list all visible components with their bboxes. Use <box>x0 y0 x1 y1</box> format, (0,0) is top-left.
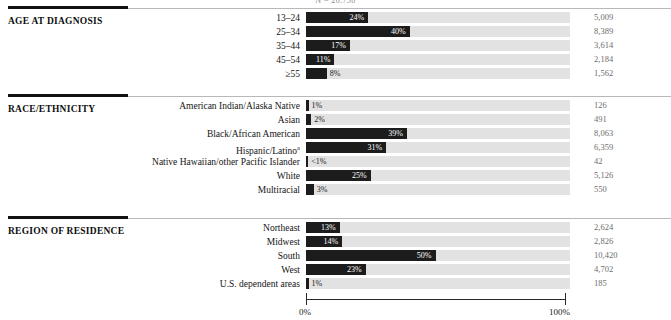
chart-row: Black/African American39%8,063 <box>0 128 671 142</box>
bar <box>306 156 308 167</box>
bar-track: 17% <box>306 40 570 51</box>
bar-value-label: 3% <box>317 184 328 195</box>
chart-row: Hispanic/Latinoa31%6,359 <box>0 142 671 156</box>
axis-line <box>306 299 566 300</box>
row-count: 8,389 <box>594 26 613 38</box>
chart-row: Multiracial3%550 <box>0 184 671 198</box>
chart-row: ≥558%1,562 <box>0 68 671 82</box>
row-label: 13–24 <box>60 12 300 24</box>
row-label: 45–54 <box>60 54 300 66</box>
chart-section: AGE AT DIAGNOSIS13–2424%5,00925–3440%8,3… <box>0 6 671 10</box>
bar-value-label: 1% <box>312 100 323 111</box>
row-count: 4,702 <box>594 264 613 276</box>
bar-track: 23% <box>306 264 570 275</box>
bar-track: 1% <box>306 278 570 289</box>
row-label-footnote-marker: a <box>297 144 300 151</box>
bar-track: 1% <box>306 100 570 111</box>
chart-row: 45–5411%2,184 <box>0 54 671 68</box>
bar-value-label: 17% <box>306 40 346 51</box>
row-count: 2,624 <box>594 222 613 234</box>
bar-track: 31% <box>306 142 570 153</box>
bar <box>306 68 327 79</box>
bar <box>306 184 314 195</box>
bar-track: 3% <box>306 184 570 195</box>
row-count: 3,614 <box>594 40 613 52</box>
axis-tick-left <box>306 293 307 305</box>
row-label: West <box>60 264 300 276</box>
chart-row: South50%10,420 <box>0 250 671 264</box>
chart-row: Asian2%491 <box>0 114 671 128</box>
row-count: 185 <box>594 278 607 290</box>
bar-track: 14% <box>306 236 570 247</box>
row-label: Black/African American <box>60 128 300 140</box>
bar-track: <1% <box>306 156 570 167</box>
section-rule-thick <box>8 216 128 219</box>
row-count: 6,359 <box>594 142 613 154</box>
bar-value-label: 24% <box>306 12 364 23</box>
row-count: 5,126 <box>594 170 613 182</box>
section-rule <box>0 94 671 98</box>
bar-value-label: <1% <box>311 156 326 167</box>
row-label: Native Hawaiian/other Pacific Islander <box>60 156 300 168</box>
axis-label-max: 100% <box>549 307 570 317</box>
bar-track: 24% <box>306 12 570 23</box>
bar-value-label: 1% <box>312 278 323 289</box>
row-count: 2,826 <box>594 236 613 248</box>
row-count: 42 <box>594 156 603 168</box>
chart-row: American Indian/Alaska Native1%126 <box>0 100 671 114</box>
section-rule-thick <box>8 94 128 97</box>
bar-track: 13% <box>306 222 570 233</box>
chart-row: West23%4,702 <box>0 264 671 278</box>
row-count: 8,063 <box>594 128 613 140</box>
chart-row: Native Hawaiian/other Pacific Islander<1… <box>0 156 671 170</box>
chart-row: 25–3440%8,389 <box>0 26 671 40</box>
bar-track: 39% <box>306 128 570 139</box>
row-count: 10,420 <box>594 250 617 262</box>
row-group: American Indian/Alaska Native1%126Asian2… <box>0 100 671 198</box>
row-label-text: Hispanic/Latino <box>236 146 297 156</box>
section-rule <box>0 216 671 220</box>
bar-track: 2% <box>306 114 570 125</box>
row-count: 491 <box>594 114 607 126</box>
bar <box>306 100 309 111</box>
row-label: White <box>60 170 300 182</box>
row-count: 126 <box>594 100 607 112</box>
bar <box>306 278 309 289</box>
row-label: Hispanic/Latinoa <box>60 142 300 157</box>
chart-row: White25%5,126 <box>0 170 671 184</box>
row-label: Midwest <box>60 236 300 248</box>
bar-value-label: 2% <box>314 114 325 125</box>
bar-value-label: 11% <box>306 54 330 65</box>
bar-track: 11% <box>306 54 570 65</box>
chart-row: U.S. dependent areas1%185 <box>0 278 671 292</box>
chart-row: Northeast13%2,624 <box>0 222 671 236</box>
bar-value-label: 31% <box>306 142 382 153</box>
section-rule <box>0 6 671 10</box>
row-count: 5,009 <box>594 12 613 24</box>
chart-section: REGION OF RESIDENCENortheast13%2,624Midw… <box>0 216 671 220</box>
row-label: American Indian/Alaska Native <box>60 100 300 112</box>
chart-section: RACE/ETHNICITYAmerican Indian/Alaska Nat… <box>0 94 671 98</box>
bar <box>306 114 311 125</box>
row-count: 1,562 <box>594 68 613 80</box>
axis-label-min: 0% <box>299 307 311 317</box>
axis-tick-right <box>565 293 566 305</box>
bar-track: 25% <box>306 170 570 181</box>
bar-value-label: 13% <box>306 222 336 233</box>
row-label: Asian <box>60 114 300 126</box>
bar-track: 40% <box>306 26 570 37</box>
row-label: Northeast <box>60 222 300 234</box>
chart-row: Midwest14%2,826 <box>0 236 671 250</box>
bar-value-label: 25% <box>306 170 367 181</box>
bar-value-label: 8% <box>330 68 341 79</box>
row-count: 550 <box>594 184 607 196</box>
bar-track: 8% <box>306 68 570 79</box>
chart-row: 13–2424%5,009 <box>0 12 671 26</box>
top-caption: N = 20,758 <box>0 0 671 3</box>
bar-value-label: 40% <box>306 26 406 37</box>
bar-value-label: 23% <box>306 264 362 275</box>
bar-value-label: 39% <box>306 128 403 139</box>
row-count: 2,184 <box>594 54 613 66</box>
row-label: ≥55 <box>60 68 300 80</box>
chart-row: 35–4417%3,614 <box>0 40 671 54</box>
